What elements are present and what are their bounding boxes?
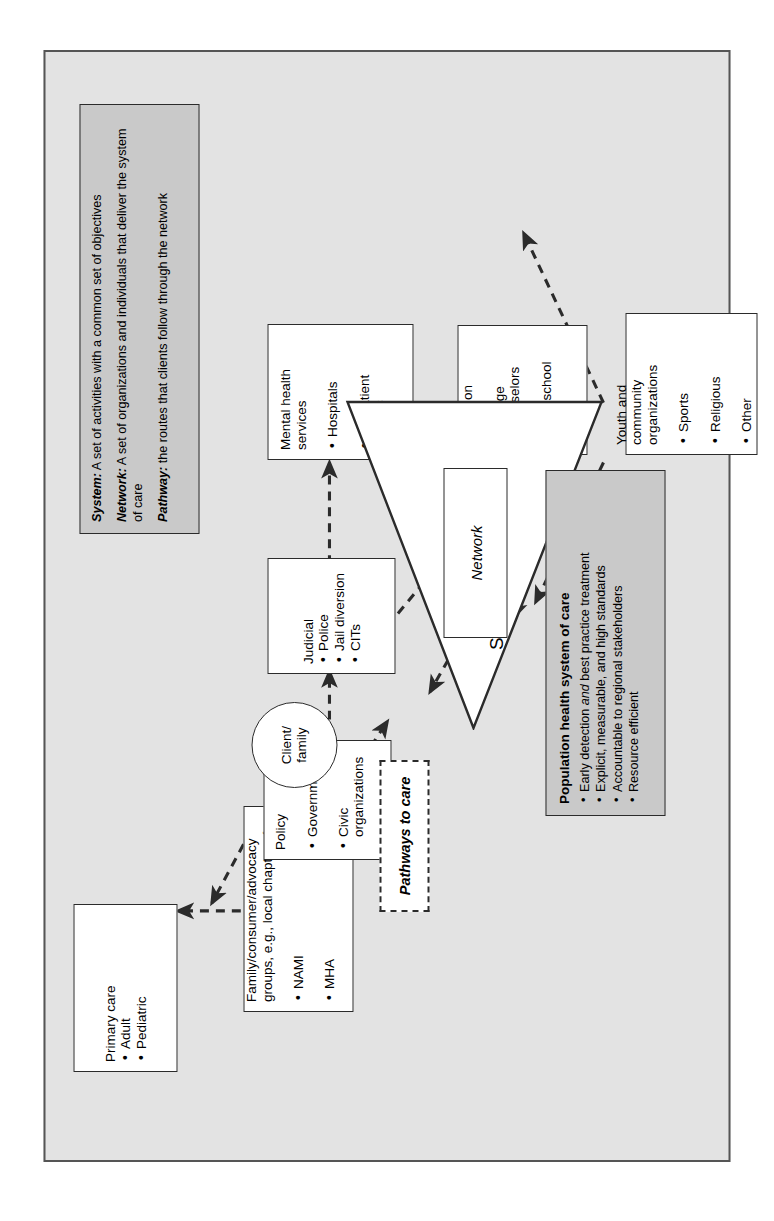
definition-network: Network: A set of organizations and indi… bbox=[114, 116, 146, 522]
legend-label: Pathways to care bbox=[396, 777, 412, 895]
figure-frame: Primary care Adult Pediatric Family/cons… bbox=[43, 50, 730, 1162]
panel-bullet-list: Early detection and best practice treatm… bbox=[576, 482, 641, 804]
legend-pathways-to-care: Pathways to care bbox=[379, 760, 429, 912]
node-item-list: Sports Religious Other bbox=[660, 323, 770, 445]
network-label-box[interactable]: Network bbox=[443, 468, 507, 638]
node-primary-care[interactable]: Primary care Adult Pediatric bbox=[73, 904, 177, 1072]
panel-heading: Population health system of care bbox=[555, 482, 572, 804]
list-item: Explicit, measurable, and high standards bbox=[592, 482, 608, 792]
definition-text: A set of activities with a common set of… bbox=[89, 194, 103, 473]
node-title: Youth and community organizations bbox=[613, 323, 660, 445]
bullet-text-post: best practice treatment bbox=[577, 553, 591, 685]
definition-term: Network: bbox=[114, 468, 128, 522]
definition-pathway: Pathway: the routes that clients follow … bbox=[155, 116, 171, 522]
list-item: Other bbox=[738, 323, 754, 432]
node-item-list: Adult Pediatric bbox=[117, 914, 148, 1062]
list-item: Hospitals bbox=[324, 334, 340, 437]
bullet-text-em: and bbox=[577, 684, 591, 705]
list-item: Police bbox=[315, 568, 331, 651]
definitions-panel: System: A set of activities with a commo… bbox=[79, 104, 199, 534]
definition-system: System: A set of activities with a commo… bbox=[89, 116, 105, 522]
definition-text: A set of organizations and individuals t… bbox=[114, 129, 144, 522]
node-title: Mental health services bbox=[277, 334, 308, 450]
list-item: Pediatric bbox=[133, 914, 149, 1049]
list-item: Accountable to regional stakeholders bbox=[609, 482, 625, 792]
node-title: Primary care bbox=[102, 914, 118, 1062]
definition-term: Pathway: bbox=[155, 467, 169, 522]
bullet-text-pre: Early detection bbox=[577, 705, 591, 792]
list-item: Jail diversion bbox=[331, 568, 347, 651]
diagram-canvas: Primary care Adult Pediatric Family/cons… bbox=[43, 50, 730, 1162]
list-item: Sports bbox=[675, 323, 691, 432]
list-item: Civic organizations bbox=[335, 750, 366, 837]
definition-term: System: bbox=[89, 473, 103, 522]
list-item: Adult bbox=[117, 914, 133, 1049]
node-youth-community-organizations[interactable]: Youth and community organizations Sports… bbox=[625, 313, 757, 455]
node-title: Judicial bbox=[300, 568, 316, 664]
definition-text: the routes that clients follow through t… bbox=[155, 193, 169, 467]
network-label: Network bbox=[467, 526, 484, 581]
list-item: Early detection and best practice treatm… bbox=[576, 482, 592, 792]
list-item: Resource efficient bbox=[625, 482, 641, 792]
client-family-circle[interactable]: Client/ family bbox=[251, 702, 337, 788]
client-family-label: Client/ family bbox=[279, 726, 309, 764]
list-item: Religious bbox=[707, 323, 723, 432]
population-health-panel: Population health system of care Early d… bbox=[545, 470, 665, 816]
